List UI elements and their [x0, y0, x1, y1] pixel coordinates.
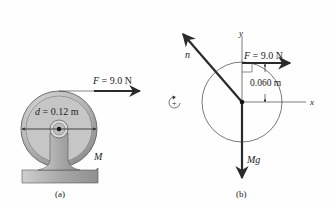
panel-b: y x F = 9.0 N 0.060 m n Mg + (b) — [169, 28, 314, 199]
diameter-label: d = 0.12 m — [35, 106, 79, 117]
panel-a: F = 9.0 N d = 0.12 m M (a) — [21, 75, 140, 199]
force-label-a: F = 9.0 N — [92, 75, 132, 86]
pivot-point — [240, 100, 245, 105]
caption-b: (b) — [236, 189, 247, 199]
rotation-direction-icon: + — [169, 96, 180, 109]
x-axis-label: x — [309, 97, 314, 107]
diagram-canvas: F = 9.0 N d = 0.12 m M (a) y x F = 9.0 N… — [0, 0, 333, 207]
weight-label: Mg — [246, 154, 260, 165]
caption-a: (a) — [55, 189, 65, 199]
mass-label: M — [93, 151, 103, 162]
normal-force-arrow — [183, 34, 242, 102]
force-label-b: F = 9.0 N — [243, 50, 283, 61]
radius-label: 0.060 m — [250, 78, 282, 88]
normal-force-label: n — [185, 49, 190, 60]
svg-text:+: + — [172, 99, 177, 108]
y-axis-label: y — [238, 28, 243, 38]
